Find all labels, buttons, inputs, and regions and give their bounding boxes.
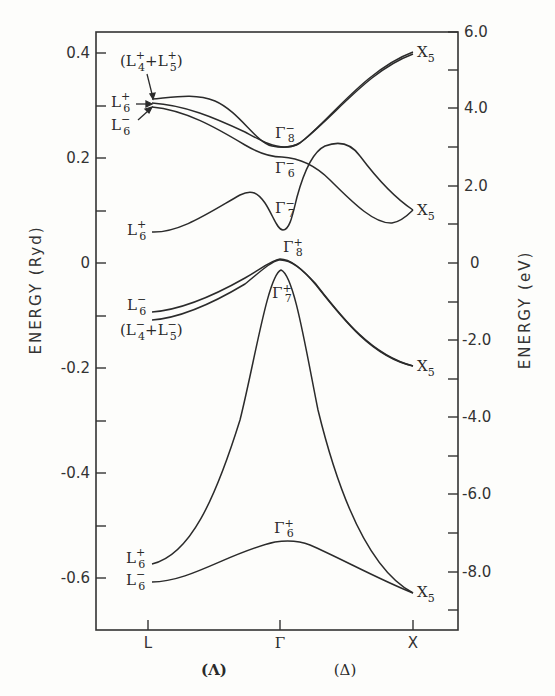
tick-0: 0 [80,254,90,272]
label-X5-lower-mid: X5 [417,357,435,379]
tick-4.0: 4.0 [464,99,488,117]
right-axis-ticks [448,32,458,610]
left-tick-labels: 0.4 0.2 0 -0.2 -0.4 -0.6 [61,44,90,587]
band-L45minus-gamma8plus [152,260,413,366]
tick-neg6.0: -6.0 [462,485,491,503]
direction-delta: (Δ) [334,661,357,679]
tick-6.0: 6.0 [464,23,488,41]
direction-lambda: (Λ) [201,661,227,679]
right-tick-labels: 6.0 4.0 2.0 0 -2.0 -4.0 -6.0 -8.0 [462,23,491,581]
x-label-L: L [144,634,153,652]
x-label-X: X [408,634,418,652]
left-axis-ticks [96,53,106,578]
tick-neg4.0: -4.0 [462,408,491,426]
y-left-title: ENERGY (Ryd) [27,225,45,354]
tick-neg0.2: -0.2 [61,359,90,377]
label-L6plus-middle: L+6 [127,218,146,243]
label-L6minus-middle: L−6 [127,293,146,318]
tick-2.0: 2.0 [464,177,488,195]
label-arrows [136,74,155,120]
band-L6minus-gamma6plus [152,541,413,593]
label-L45plus: (L+4+L+5) [120,49,183,74]
tick-neg8.0: -8.0 [462,563,491,581]
label-gamma7plus: Γ+7 [272,282,292,305]
label-L6plus-upper: L+6 [111,90,130,115]
band-L6minus-gamma8plus [152,259,413,366]
y-right-title: ENERGY (eV) [516,251,534,370]
label-gamma8minus: Γ−8 [275,122,295,145]
tick-0.2: 0.2 [66,149,90,167]
label-X5-upper-mid: X5 [417,201,435,223]
x-axis-ticks [148,620,413,630]
label-gamma6plus: Γ+6 [274,517,294,540]
tick-0.4: 0.4 [66,44,90,62]
x-label-gamma: Γ [275,634,285,652]
band-structure-chart: 0.4 0.2 0 -0.2 -0.4 -0.6 6.0 4.0 2.0 0 -… [0,0,555,696]
label-L45minus: (L−4+L−5) [120,318,183,343]
label-gamma6minus: Γ−6 [275,157,295,180]
tick-0-ev: 0 [470,254,480,272]
band-L6plus-gamma7plus [152,270,413,593]
label-L6minus-upper: L−6 [111,113,130,138]
label-L6minus-lower: L−6 [126,568,145,593]
label-gamma7minus: Γ−7 [275,197,295,220]
label-X5-bottom: X5 [417,583,435,605]
tick-neg0.6: -0.6 [61,569,90,587]
tick-neg0.4: -0.4 [61,464,90,482]
label-X5-top: X5 [417,43,435,65]
band-labels: (L+4+L+5) L+6 L−6 Γ−8 Γ−6 Γ−7 L+6 Γ+8 Γ+… [111,43,435,605]
label-gamma8plus: Γ+8 [283,236,303,259]
tick-neg2.0: -2.0 [462,331,491,349]
